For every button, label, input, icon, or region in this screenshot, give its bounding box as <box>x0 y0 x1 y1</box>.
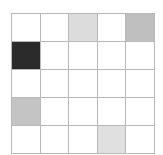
grid-cell-r4-c0[interactable] <box>12 126 41 154</box>
grid-cell-r4-c2[interactable] <box>69 126 98 154</box>
grid-cell-r0-c3[interactable] <box>98 14 127 42</box>
grid-cell-r1-c0[interactable] <box>12 42 41 70</box>
grid-cell-r0-c2[interactable] <box>69 14 98 42</box>
grid-cell-r3-c4[interactable] <box>126 98 155 126</box>
grid-cell-r3-c3[interactable] <box>98 98 127 126</box>
grid-cell-r4-c4[interactable] <box>126 126 155 154</box>
grid-cell-r4-c3[interactable] <box>98 126 127 154</box>
grid-cell-r0-c0[interactable] <box>12 14 41 42</box>
grid-cell-r0-c1[interactable] <box>41 14 70 42</box>
grid-cell-r1-c4[interactable] <box>126 42 155 70</box>
grid-cell-r1-c3[interactable] <box>98 42 127 70</box>
grid-cell-r3-c0[interactable] <box>12 98 41 126</box>
grid-cell-r3-c1[interactable] <box>41 98 70 126</box>
grid-cell-r2-c2[interactable] <box>69 70 98 98</box>
grid-cell-r0-c4[interactable] <box>126 14 155 42</box>
grid-cell-r1-c1[interactable] <box>41 42 70 70</box>
grid-cell-r2-c4[interactable] <box>126 70 155 98</box>
grid-cell-r2-c0[interactable] <box>12 70 41 98</box>
grid-cell-r4-c1[interactable] <box>41 126 70 154</box>
grid-cell-r2-c1[interactable] <box>41 70 70 98</box>
grid-cell-r1-c2[interactable] <box>69 42 98 70</box>
grid-board <box>11 13 155 154</box>
grid-cell-r3-c2[interactable] <box>69 98 98 126</box>
grid-cell-r2-c3[interactable] <box>98 70 127 98</box>
